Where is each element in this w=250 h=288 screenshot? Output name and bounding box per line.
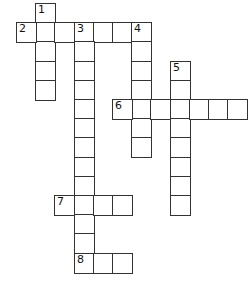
crossword-cell[interactable] [74,80,95,101]
crossword-cell[interactable] [54,22,75,43]
crossword-cell[interactable] [131,118,152,139]
clue-number: 3 [77,23,84,35]
crossword-cell[interactable] [189,99,210,120]
crossword-cell[interactable] [112,22,133,43]
crossword-cell[interactable] [74,176,95,197]
crossword-cell[interactable] [74,233,95,254]
crossword-cell[interactable] [170,118,191,139]
crossword-cell[interactable] [112,253,133,274]
crossword-cell[interactable] [150,99,171,120]
crossword-cell[interactable] [170,176,191,197]
crossword-cell[interactable] [170,99,191,120]
crossword-cell[interactable] [74,157,95,178]
crossword-cell[interactable] [170,80,191,101]
clue-number: 2 [19,23,26,35]
crossword-cell[interactable] [170,195,191,216]
crossword-cell[interactable] [74,137,95,158]
crossword-grid: 12348567 [0,0,250,288]
crossword-cell[interactable] [35,61,56,82]
crossword-cell[interactable] [93,195,114,216]
crossword-cell[interactable]: 6 [112,99,133,120]
crossword-cell[interactable]: 5 [170,61,191,82]
crossword-cell[interactable] [131,80,152,101]
clue-number: 4 [134,23,141,35]
crossword-cell[interactable] [74,61,95,82]
crossword-cell[interactable] [131,61,152,82]
crossword-cell[interactable] [74,118,95,139]
crossword-cell[interactable]: 8 [74,253,95,274]
crossword-cell[interactable]: 3 [74,22,95,43]
crossword-cell[interactable]: 2 [16,22,37,43]
clue-number: 5 [173,62,180,74]
crossword-cell[interactable] [35,22,56,43]
crossword-cell[interactable] [227,99,248,120]
crossword-cell[interactable] [131,41,152,62]
crossword-cell[interactable]: 1 [35,3,56,24]
crossword-cell[interactable] [170,157,191,178]
clue-number: 8 [77,254,84,266]
crossword-cell[interactable] [131,137,152,158]
crossword-cell[interactable] [93,22,114,43]
crossword-cell[interactable] [74,99,95,120]
crossword-cell[interactable] [35,80,56,101]
clue-number: 7 [57,196,64,208]
crossword-cell[interactable] [112,195,133,216]
crossword-cell[interactable]: 4 [131,22,152,43]
crossword-cell[interactable] [131,99,152,120]
crossword-cell[interactable]: 7 [54,195,75,216]
crossword-cell[interactable] [74,195,95,216]
clue-number: 1 [38,4,45,16]
crossword-cell[interactable] [170,137,191,158]
clue-number: 6 [115,100,122,112]
crossword-cell[interactable] [74,214,95,235]
crossword-cell[interactable] [93,253,114,274]
crossword-cell[interactable] [74,41,95,62]
crossword-cell[interactable] [35,41,56,62]
crossword-cell[interactable] [208,99,229,120]
